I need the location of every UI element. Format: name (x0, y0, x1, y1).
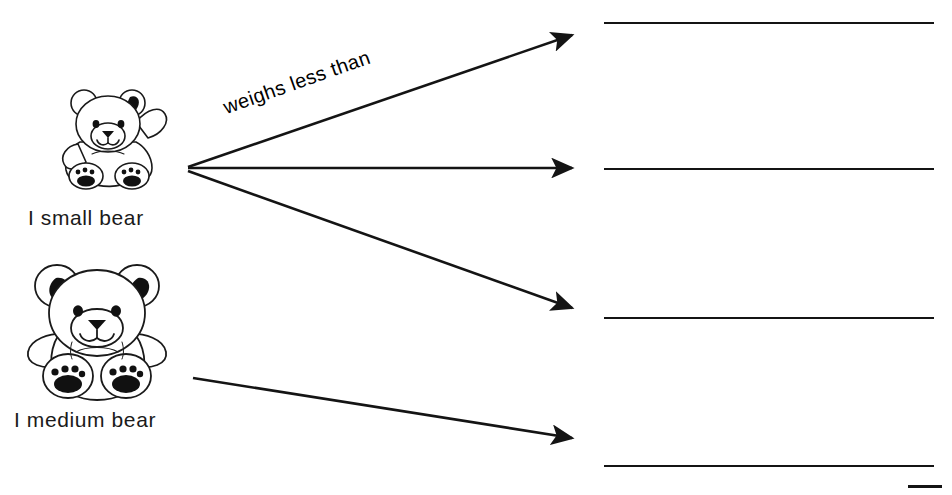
partial-edge-mark (908, 485, 942, 488)
relation-arrows (0, 0, 952, 495)
arrow-line-3 (188, 171, 572, 308)
arrow-line-4 (193, 378, 572, 438)
answer-line[interactable] (604, 168, 934, 170)
answer-line[interactable] (604, 22, 934, 24)
answer-line[interactable] (604, 317, 934, 319)
answer-line[interactable] (604, 465, 934, 467)
worksheet-canvas: I small bear (0, 0, 952, 495)
